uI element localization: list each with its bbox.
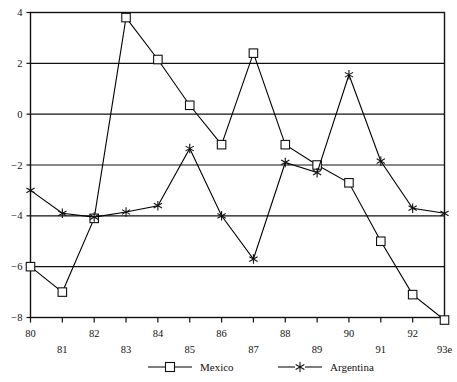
y-axis-tick-label: −4: [11, 210, 23, 221]
data-point-marker: [154, 55, 163, 64]
data-point-marker: [345, 179, 354, 188]
x-axis-tick-label: 88: [280, 328, 291, 339]
legend-label: Argentina: [330, 361, 374, 373]
data-point-marker: [166, 363, 175, 372]
series-line: [31, 75, 445, 259]
y-axis-tick-label: −8: [11, 312, 22, 323]
legend-label: Mexico: [200, 361, 234, 373]
x-axis-tick-label: 80: [25, 328, 36, 339]
x-axis-tick-label: 93e: [437, 344, 453, 355]
x-axis-tick-label: 92: [407, 328, 418, 339]
data-point-marker: [122, 13, 130, 21]
gridlines: [27, 13, 445, 318]
data-point-marker: [217, 140, 226, 149]
x-axis-tick-label: 83: [121, 344, 132, 355]
chart-legend: MexicoArgentina: [148, 361, 374, 373]
chart-container: 420−2−4−6−8 8081828384858687888990919293…: [0, 0, 457, 382]
data-point-marker: [440, 316, 449, 325]
y-axis-tick-label: −2: [11, 160, 22, 171]
x-axis-tick-label: 85: [184, 344, 195, 355]
x-axis-tick-labels: 8081828384858687888990919293e: [25, 328, 452, 355]
x-axis-tick-label: 87: [248, 344, 259, 355]
x-axis-tick-label: 91: [376, 344, 387, 355]
y-axis-tick-label: 2: [17, 58, 22, 69]
data-point-marker: [185, 101, 194, 110]
x-axis-tick-label: 82: [89, 328, 100, 339]
y-axis-tick-labels: 420−2−4−6−8: [11, 7, 23, 323]
data-point-marker: [58, 288, 67, 297]
x-axis-tick-label: 81: [57, 344, 68, 355]
x-axis-ticks: [31, 318, 445, 323]
data-point-marker: [281, 140, 290, 149]
data-point-marker: [26, 262, 35, 271]
x-axis-tick-label: 84: [153, 328, 164, 339]
data-point-marker: [249, 49, 258, 58]
x-axis-tick-label: 90: [344, 328, 355, 339]
y-axis-tick-label: 0: [17, 109, 22, 120]
y-axis-tick-label: −6: [11, 261, 22, 272]
legend-item-argentina[interactable]: Argentina: [278, 361, 374, 373]
data-series-layer: [26, 13, 449, 324]
data-point-marker: [377, 237, 386, 246]
data-point-marker: [408, 290, 417, 299]
legend-item-mexico[interactable]: Mexico: [148, 361, 234, 373]
x-axis-tick-label: 86: [216, 328, 227, 339]
x-axis-tick-label: 89: [312, 344, 323, 355]
line-chart: 420−2−4−6−8 8081828384858687888990919293…: [0, 0, 457, 382]
y-axis-tick-label: 4: [17, 7, 23, 18]
